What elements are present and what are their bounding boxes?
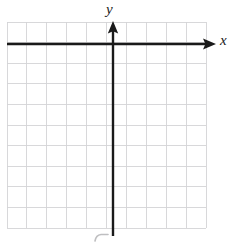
grid-lines	[7, 22, 206, 228]
scan-artifact-mark	[95, 235, 108, 242]
coordinate-plane-svg	[0, 0, 236, 244]
y-axis-label: y	[106, 2, 113, 17]
y-axis	[108, 21, 118, 236]
x-axis	[7, 39, 216, 50]
x-axis-label: x	[220, 33, 227, 48]
coordinate-grid-figure: y x	[0, 0, 236, 244]
